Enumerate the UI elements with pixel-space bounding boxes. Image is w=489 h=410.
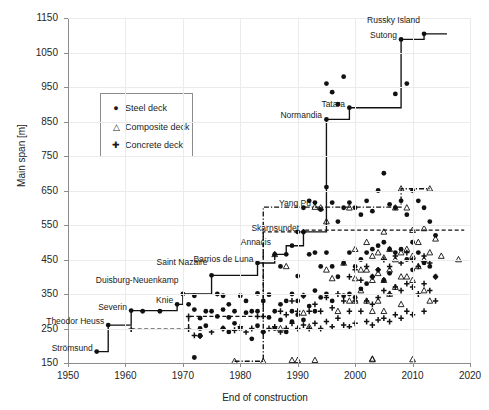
- bridge-label: Knie: [156, 296, 173, 305]
- x-tick-label: 2010: [393, 371, 433, 381]
- x-axis-title: End of construction: [195, 392, 335, 403]
- data-point: [203, 309, 208, 314]
- data-point: [387, 202, 392, 207]
- bridge-label: Yang Pu: [279, 199, 311, 208]
- data-point: [358, 267, 364, 272]
- bridge-label: Normandia: [280, 111, 322, 120]
- data-point: [364, 198, 369, 203]
- bridge-label: Duisburg-Neuenkamp: [96, 276, 179, 285]
- data-point: [307, 252, 312, 257]
- data-point: [312, 357, 318, 362]
- data-point: [387, 319, 392, 325]
- data-point: [289, 357, 295, 362]
- y-gridline: [68, 87, 470, 88]
- data-point: [381, 308, 387, 313]
- steel-record: [97, 34, 447, 352]
- data-point: [278, 329, 283, 335]
- data-point: [330, 90, 335, 95]
- y-gridline: [68, 156, 470, 157]
- data-point: [422, 261, 427, 266]
- data-point: [347, 274, 352, 280]
- data-point: [376, 243, 381, 248]
- data-point: [370, 274, 375, 280]
- data-point: [301, 310, 307, 315]
- data-point: [226, 330, 231, 335]
- data-point: [381, 171, 386, 176]
- data-point: [226, 302, 231, 307]
- data-point: [192, 355, 197, 360]
- data-point: [307, 304, 312, 309]
- data-point: [364, 239, 370, 244]
- data-point: [249, 336, 254, 341]
- bridge-label: Tatara: [321, 100, 345, 109]
- data-point: [375, 317, 380, 323]
- data-point: [221, 307, 226, 312]
- data-point: [341, 205, 346, 210]
- data-point: [313, 309, 318, 314]
- data-point: [375, 267, 380, 273]
- data-point: [267, 315, 272, 320]
- data-point: [404, 81, 409, 86]
- data-point: [307, 308, 312, 314]
- data-point: [398, 288, 403, 294]
- data-point: [404, 205, 410, 210]
- y-tick-label: 550: [18, 220, 58, 230]
- data-point: [364, 281, 369, 286]
- data-point: [232, 321, 237, 326]
- data-point: [157, 309, 162, 314]
- y-tick-label: 950: [18, 82, 58, 92]
- data-point: [255, 323, 260, 328]
- data-point: [438, 253, 444, 258]
- legend-label-composite: Composite deck: [125, 122, 190, 132]
- x-gridline: [240, 18, 241, 363]
- data-point: [329, 305, 334, 311]
- data-point: [330, 264, 335, 269]
- data-point: [330, 200, 335, 205]
- data-point: [387, 264, 392, 270]
- data-point: [283, 263, 289, 268]
- data-point: [289, 298, 294, 304]
- data-point: [358, 308, 363, 314]
- data-point: [421, 253, 426, 259]
- data-point: [243, 329, 248, 335]
- data-point: [398, 260, 403, 266]
- data-point: [209, 309, 214, 314]
- y-axis-line: [68, 18, 69, 364]
- data-point: [318, 295, 323, 300]
- series-open-triangle: [232, 186, 462, 364]
- data-point: [232, 309, 237, 314]
- bridge-label: Severin: [98, 303, 127, 312]
- x-gridline: [413, 18, 414, 363]
- x-gridline: [355, 18, 356, 363]
- data-point: [404, 212, 409, 217]
- data-point: [203, 323, 208, 328]
- y-tick-label: 750: [18, 151, 58, 161]
- y-gridline: [68, 122, 470, 123]
- data-point: [387, 271, 392, 276]
- data-point: [398, 315, 403, 321]
- data-point: [398, 274, 404, 279]
- x-tick-label: 2020: [450, 371, 489, 381]
- data-point: [324, 250, 329, 255]
- x-tick-label: 2000: [335, 371, 375, 381]
- data-point: [369, 253, 375, 258]
- data-point: [421, 308, 426, 314]
- data-point: [209, 329, 214, 335]
- data-point: [415, 239, 421, 244]
- data-point: [427, 288, 432, 294]
- data-point: [324, 81, 329, 86]
- data-point: [404, 250, 409, 256]
- data-point: [393, 312, 398, 318]
- x-gridline: [298, 18, 299, 363]
- data-point: [393, 92, 398, 97]
- data-point: [427, 250, 433, 255]
- open-triangle-icon: △: [109, 122, 123, 132]
- data-point: [312, 301, 317, 307]
- data-point: [364, 250, 369, 255]
- data-point: [313, 288, 318, 293]
- data-point: [336, 274, 341, 279]
- main-span-scatter-chart: Main span [m] End of construction ● Stee…: [0, 0, 489, 410]
- data-point: [318, 264, 323, 269]
- data-point: [381, 315, 386, 321]
- y-gridline: [68, 329, 470, 330]
